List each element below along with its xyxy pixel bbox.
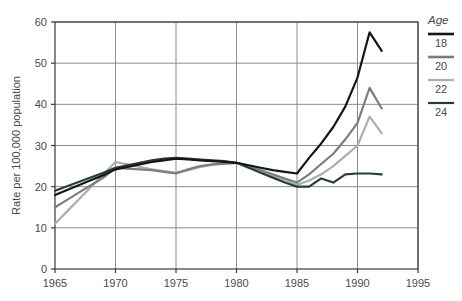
- y-tick-label: 60: [35, 16, 47, 28]
- y-tick-label: 40: [35, 98, 47, 110]
- legend-label-age-20: 20: [435, 60, 447, 72]
- x-tick-label: 1995: [406, 277, 430, 289]
- y-tick-label: 10: [35, 222, 47, 234]
- x-tick-label: 1985: [285, 277, 309, 289]
- y-tick-label: 30: [35, 140, 47, 152]
- legend-label-age-24: 24: [435, 106, 447, 118]
- legend-label-age-18: 18: [435, 37, 447, 49]
- y-tick-label: 0: [41, 263, 47, 275]
- plot-background: [0, 0, 462, 301]
- x-tick-label: 1975: [164, 277, 188, 289]
- x-tick-label: 1970: [103, 277, 127, 289]
- legend-title-text: Age: [427, 14, 448, 26]
- y-axis-title-text: Rate per 100,000 population: [10, 76, 22, 215]
- y-tick-label: 20: [35, 181, 47, 193]
- chart-container: 0102030405060 19651970197519801985199019…: [0, 0, 462, 301]
- x-tick-label: 1965: [43, 277, 67, 289]
- line-chart: 0102030405060 19651970197519801985199019…: [0, 0, 462, 301]
- x-tick-label: 1990: [345, 277, 369, 289]
- legend-label-age-22: 22: [435, 83, 447, 95]
- x-tick-label: 1980: [224, 277, 248, 289]
- y-tick-label: 50: [35, 57, 47, 69]
- y-axis-title: Rate per 100,000 population: [10, 76, 22, 215]
